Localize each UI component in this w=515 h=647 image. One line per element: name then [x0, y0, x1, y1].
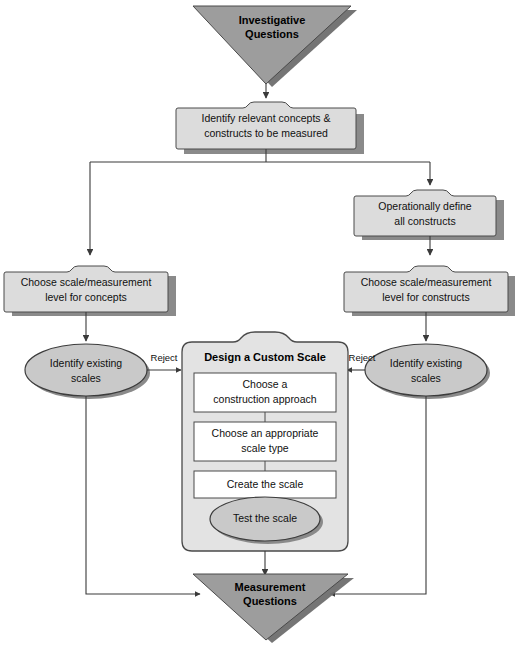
identify-concepts-line1: Identify relevant concepts &	[202, 112, 331, 124]
design-step-3-line1: Create the scale	[227, 478, 304, 490]
design-custom-scale-title: Design a Custom Scale	[204, 351, 326, 363]
investigative-questions-line1: Investigative	[239, 14, 306, 26]
identify-concepts-line2: constructs to be measured	[204, 127, 328, 139]
node-choose-scale-constructs: Choose scale/measurement level for const…	[344, 266, 515, 316]
identify-existing-left-line2: scales	[71, 372, 101, 384]
reject-label-right: Reject	[349, 352, 376, 363]
choose-scale-constructs-line2: level for constructs	[382, 291, 470, 303]
measurement-questions-line2: Questions	[243, 595, 297, 607]
design-step-3: Create the scale	[194, 471, 336, 498]
node-measurement-questions: Measurement Questions	[193, 574, 354, 643]
design-step-1-line1: Choose a	[243, 378, 288, 390]
node-operationally-define: Operationally define all constructs	[354, 190, 504, 240]
identify-existing-right-line1: Identify existing	[390, 357, 463, 369]
node-identify-concepts: Identify relevant concepts & constructs …	[176, 102, 364, 154]
node-identify-existing-scales-right: Identify existing scales	[365, 344, 490, 399]
reject-label-left: Reject	[151, 352, 178, 363]
choose-scale-constructs-line1: Choose scale/measurement	[361, 276, 492, 288]
node-choose-scale-concepts: Choose scale/measurement level for conce…	[4, 266, 176, 316]
operationally-define-line1: Operationally define	[378, 200, 472, 212]
node-identify-existing-scales-left: Identify existing scales	[25, 344, 150, 399]
measurement-questions-line1: Measurement	[235, 581, 306, 593]
design-step-2-line1: Choose an appropriate	[212, 427, 319, 439]
connector-reject-left: Reject	[147, 352, 181, 370]
identify-existing-right-line2: scales	[411, 372, 441, 384]
identify-existing-left-line1: Identify existing	[50, 357, 123, 369]
design-step-1: Choose a construction approach	[194, 373, 336, 412]
design-step-test-label: Test the scale	[233, 512, 297, 524]
investigative-questions-line2: Questions	[245, 28, 299, 40]
node-investigative-questions: Investigative Questions	[193, 6, 357, 87]
flowchart-diagram: Investigative Questions Identify relevan…	[0, 0, 515, 647]
operationally-define-line2: all constructs	[394, 215, 455, 227]
design-step-2-line2: scale type	[241, 442, 288, 454]
node-design-custom-scale-panel: Design a Custom Scale Choose a construct…	[182, 332, 348, 551]
choose-scale-concepts-line1: Choose scale/measurement	[21, 276, 152, 288]
choose-scale-concepts-line2: level for concepts	[45, 291, 127, 303]
design-step-2: Choose an appropriate scale type	[194, 422, 336, 461]
design-step-1-line2: construction approach	[213, 393, 316, 405]
flowchart-canvas: Investigative Questions Identify relevan…	[0, 0, 515, 647]
